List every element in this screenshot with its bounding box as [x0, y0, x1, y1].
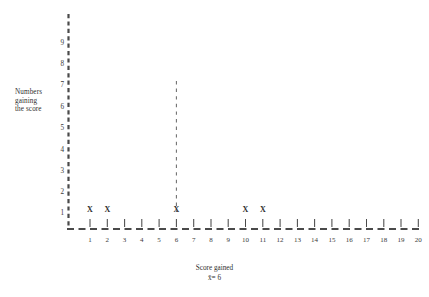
y-tick-label-2: 2 [50, 188, 64, 196]
y-tick-label-4: 4 [50, 146, 64, 154]
scatter-plot-canvas [0, 0, 429, 297]
x-tick-marks [90, 219, 418, 227]
data-point-marker-score-2: X [101, 206, 113, 214]
x-axis-title: Score gained [0, 263, 429, 273]
mean-annotation: x̄= 6 [0, 273, 429, 283]
y-tick-label-3: 3 [50, 167, 64, 175]
y-tick-label-1: 1 [50, 209, 64, 217]
mean-annotation-text: x̄= 6 [208, 274, 221, 282]
x-tick-label-16: 16 [341, 236, 357, 244]
x-tick-label-5: 5 [151, 236, 167, 244]
x-tick-label-2: 2 [99, 236, 115, 244]
x-tick-label-8: 8 [203, 236, 219, 244]
x-tick-label-12: 12 [272, 236, 288, 244]
x-tick-label-14: 14 [307, 236, 323, 244]
x-tick-label-18: 18 [376, 236, 392, 244]
x-tick-label-15: 15 [324, 236, 340, 244]
x-tick-label-4: 4 [134, 236, 150, 244]
x-tick-label-19: 19 [393, 236, 409, 244]
x-tick-label-7: 7 [186, 236, 202, 244]
x-tick-label-1: 1 [82, 236, 98, 244]
y-tick-label-8: 8 [50, 60, 64, 68]
x-tick-label-13: 13 [289, 236, 305, 244]
x-tick-label-20: 20 [410, 236, 426, 244]
x-tick-label-6: 6 [168, 236, 184, 244]
data-point-marker-score-1: X [84, 206, 96, 214]
data-point-marker-score-11: X [257, 206, 269, 214]
x-tick-label-11: 11 [255, 236, 271, 244]
x-tick-label-17: 17 [359, 236, 375, 244]
data-point-marker-score-6: X [170, 206, 182, 214]
y-tick-label-5: 5 [50, 124, 64, 132]
data-point-marker-score-10: X [240, 206, 252, 214]
x-tick-label-9: 9 [220, 236, 236, 244]
x-tick-label-3: 3 [117, 236, 133, 244]
y-tick-label-7: 7 [50, 81, 64, 89]
y-tick-label-9: 9 [50, 39, 64, 47]
y-tick-label-6: 6 [50, 103, 64, 111]
y-axis-title-line-1: Numbers [15, 88, 63, 97]
x-tick-label-10: 10 [238, 236, 254, 244]
